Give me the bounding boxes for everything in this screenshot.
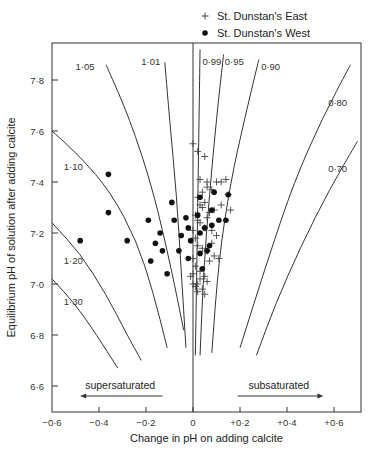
west-point	[197, 251, 203, 257]
x-tick-label: −0·4	[89, 417, 108, 428]
west-point	[204, 248, 210, 254]
west-point	[216, 217, 222, 223]
west-point	[153, 240, 159, 246]
saturation-curve	[52, 223, 141, 361]
curve-label: 1·20	[64, 255, 83, 266]
west-point	[202, 225, 208, 231]
west-point	[211, 189, 217, 195]
saturation-curve	[165, 62, 186, 348]
west-point	[209, 223, 215, 229]
west-point	[157, 230, 163, 236]
west-point	[200, 266, 206, 272]
east-point	[218, 201, 225, 208]
y-tick-label: 7·8	[30, 75, 44, 86]
y-axis-title: Equilibrium pH of solution after adding …	[5, 117, 17, 337]
west-point	[209, 207, 215, 213]
legend-cross-marker	[202, 13, 209, 20]
west-point	[148, 258, 154, 264]
east-point	[206, 258, 213, 265]
east-point	[204, 179, 211, 186]
west-point	[197, 230, 203, 236]
curve-label: 0·99	[202, 56, 221, 67]
curve-label: 1·30	[64, 296, 83, 307]
west-point	[195, 212, 201, 218]
x-tick-label: +0·4	[277, 417, 296, 428]
legend-label-east: St. Dunstan's East	[217, 10, 307, 22]
supersaturated-label: supersaturated	[85, 379, 155, 391]
west-point	[178, 233, 184, 239]
west-point	[188, 238, 194, 244]
west-point	[124, 238, 130, 244]
x-tick-label: +0·6	[324, 417, 343, 428]
west-point	[186, 256, 192, 262]
left-arrow-icon	[80, 394, 86, 399]
west-point	[106, 172, 112, 178]
y-tick-label: 7·4	[30, 177, 44, 188]
west-point	[225, 192, 231, 198]
y-tick-label: 7·0	[30, 279, 44, 290]
x-tick-label: +0·2	[230, 417, 249, 428]
west-point	[164, 271, 170, 277]
legend-dot-marker	[202, 30, 208, 36]
west-point	[77, 238, 83, 244]
y-tick-label: 6·6	[30, 381, 44, 392]
west-point	[160, 248, 166, 254]
legend: St. Dunstan's EastSt. Dunstan's West	[202, 10, 311, 39]
saturation-curve	[106, 65, 184, 330]
curve-label: 1·05	[76, 61, 95, 72]
west-point	[197, 195, 203, 201]
east-point	[190, 140, 197, 147]
x-tick-label: 0	[190, 417, 195, 428]
curve-label: 0·80	[328, 97, 347, 108]
west-point	[186, 225, 192, 231]
west-point	[171, 217, 177, 223]
west-point	[169, 200, 175, 206]
west-point	[207, 243, 213, 249]
east-point	[201, 153, 208, 160]
east-point	[227, 207, 234, 214]
x-tick-label: −0·2	[136, 417, 155, 428]
west-point	[223, 217, 229, 223]
curve-label: 0·95	[225, 56, 244, 67]
curve-label: 0·90	[261, 61, 280, 72]
legend-label-west: St. Dunstan's West	[217, 27, 310, 39]
subsaturated-label: subsaturated	[248, 379, 309, 391]
y-tick-label: 7·6	[30, 126, 44, 137]
west-point	[176, 248, 182, 254]
west-point	[183, 215, 189, 221]
data-points	[77, 140, 234, 297]
curve-label: 0·70	[328, 163, 347, 174]
east-point	[213, 232, 220, 239]
west-point	[106, 210, 112, 216]
y-tick-label: 7·2	[30, 228, 44, 239]
curve-label: 1·10	[64, 161, 83, 172]
west-point	[146, 217, 152, 223]
east-point	[194, 148, 201, 155]
saturation-curves: 1·051·011·101·201·300·990·950·900·800·70	[52, 49, 358, 368]
saturation-curve	[52, 279, 118, 368]
right-arrow-icon	[317, 394, 323, 399]
saturation-curve	[195, 49, 200, 355]
x-axis-title: Change in pH on adding calcite	[130, 432, 283, 444]
annotations: supersaturatedsubsaturated	[80, 379, 323, 399]
scatter-chart: 1·051·011·101·201·300·990·950·900·800·70…	[0, 0, 377, 463]
curve-label: 1·01	[141, 56, 160, 67]
y-tick-label: 6·8	[30, 330, 44, 341]
x-tick-label: −0·6	[42, 417, 61, 428]
saturation-curve	[212, 60, 259, 353]
